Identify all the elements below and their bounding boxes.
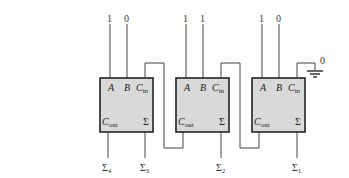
- input-b-value: 0: [124, 13, 129, 24]
- input-a-value: 1: [183, 13, 188, 24]
- label-sum: Σ: [219, 116, 225, 127]
- output-sigma-3: Σ3: [140, 162, 150, 175]
- label-b: B: [276, 82, 282, 93]
- label-sum: Σ: [143, 116, 149, 127]
- label-a: A: [107, 82, 115, 93]
- label-a: A: [183, 82, 191, 93]
- label-b: B: [124, 82, 130, 93]
- input-a-value: 1: [259, 13, 264, 24]
- ground-value: 0: [320, 55, 325, 66]
- input-b-value: 0: [276, 13, 281, 24]
- output-sigma-4: Σ4: [102, 162, 112, 175]
- adder-diagram: 1 0 A B Cin Cout Σ Σ4 Σ3 1 1 A B Cin Cou…: [0, 0, 349, 178]
- adder-left: 1 0 A B Cin Cout Σ Σ4 Σ3: [100, 13, 153, 175]
- label-a: A: [259, 82, 267, 93]
- adder-middle: 1 1 A B Cin Cout Σ Σ2: [176, 13, 229, 175]
- output-sigma-1: Σ1: [292, 162, 302, 175]
- adder-right: 1 0 A B Cin Cout Σ Σ1: [252, 13, 305, 175]
- input-b-value: 1: [200, 13, 205, 24]
- input-a-value: 1: [107, 13, 112, 24]
- output-sigma-2: Σ2: [216, 162, 226, 175]
- label-sum: Σ: [295, 116, 301, 127]
- label-b: B: [200, 82, 206, 93]
